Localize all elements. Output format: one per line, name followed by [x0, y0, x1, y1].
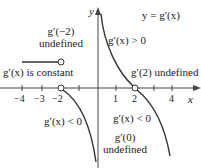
tick-label: −3 [34, 94, 45, 104]
derivative-graph-figure: y x y = g′(x) g′(−2) undefined g′(x) is … [0, 0, 201, 168]
x-axis-label: x [188, 93, 193, 105]
negative-left-label: g′(x) < 0 [44, 115, 82, 127]
tick-label: 4 [169, 94, 174, 104]
curve-label: y = g′(x) [142, 9, 180, 21]
tick-label: 1 [113, 94, 118, 104]
negative-right-label: g′(x) < 0 [113, 112, 151, 124]
y-axis-label: y [89, 5, 94, 17]
y-axis-arrow-icon [95, 7, 101, 15]
g-neg2-label: g′(−2) [36, 25, 86, 37]
positive-label: g′(x) > 0 [108, 34, 146, 46]
constant-label: g′(x) is constant [3, 66, 73, 78]
g0-undefined: undefined [100, 143, 150, 155]
open-circle-icon [58, 59, 64, 65]
tick-label: −2 [52, 94, 63, 104]
curve-upper-branch [101, 14, 133, 86]
open-circle-icon [132, 85, 138, 91]
g0-label: g′(0) [100, 131, 150, 143]
g2-undefined-label: g′(2) undefined [131, 66, 198, 78]
tick-label: 2 [132, 94, 137, 104]
tick-label: −4 [14, 94, 25, 104]
x-axis-arrow-icon [193, 85, 201, 91]
g-neg2-undefined: undefined [36, 37, 86, 49]
open-circle-icon [58, 85, 64, 91]
